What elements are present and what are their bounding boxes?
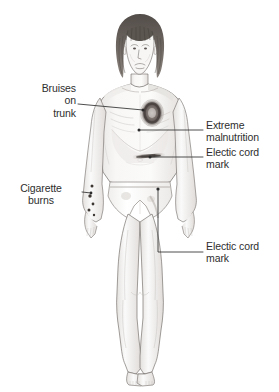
lesion-ring-bruise-chest [141, 100, 164, 127]
right-arm [83, 98, 106, 238]
callout-label-electic-cord-mark-upper: Electic cord mark [206, 146, 278, 171]
callout-label-extreme-malnutrition: Extreme malnutrition [206, 119, 278, 144]
dot-cord-lower [156, 187, 159, 190]
legs [117, 214, 164, 386]
dot-cord-upper [149, 156, 152, 159]
left-arm [173, 98, 196, 238]
underwear [108, 182, 172, 218]
dot-bruises [142, 109, 145, 112]
dot-malnutrition [138, 129, 141, 132]
callout-label-electic-cord-mark-lower: Electic cord mark [206, 240, 278, 265]
callout-label-bruises-on-trunk: Bruises on trunk [8, 82, 76, 119]
callout-label-cigarette-burns: Cigarette burns [2, 182, 80, 207]
dot-cigarette [90, 192, 93, 195]
